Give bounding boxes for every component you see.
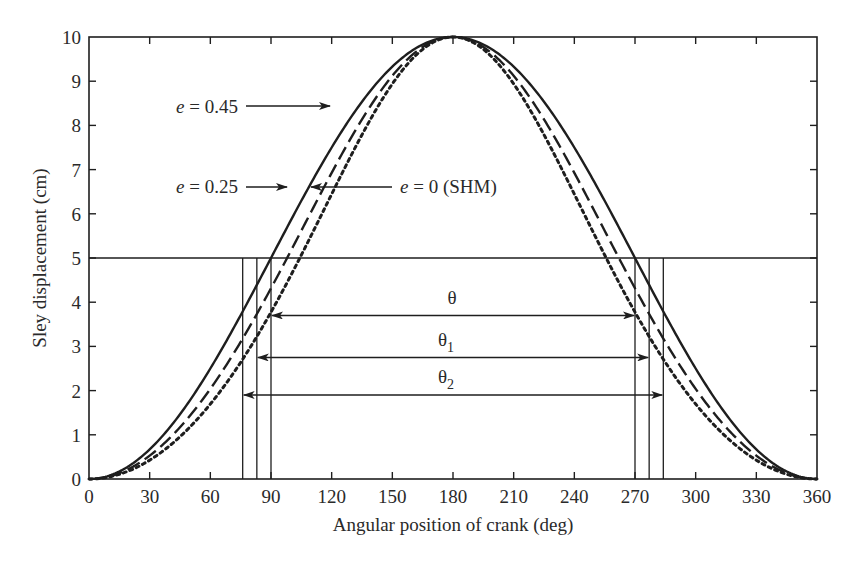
x-tick-label: 300	[681, 486, 710, 507]
theta1-label: θ1	[438, 329, 454, 355]
x-tick-label: 30	[140, 486, 159, 507]
annotation-e045: e = 0.45	[176, 96, 238, 117]
y-tick-label: 5	[72, 248, 82, 269]
sley-displacement-chart: 012345678910 030609012015018021024027030…	[0, 0, 858, 569]
x-tick-label: 240	[560, 486, 589, 507]
y-tick-label: 4	[72, 292, 82, 313]
y-tick-label: 6	[72, 204, 82, 225]
y-tick-label: 1	[72, 425, 82, 446]
y-axis-title: Sley displacement (cm)	[29, 168, 51, 347]
x-tick-label: 360	[803, 486, 832, 507]
x-tick-label: 180	[439, 486, 468, 507]
annotation-e0: e = 0 (SHM)	[400, 176, 497, 198]
x-tick-label: 150	[378, 486, 407, 507]
x-tick-label: 0	[84, 486, 94, 507]
x-tick-label: 60	[201, 486, 220, 507]
y-tick-label: 10	[62, 27, 81, 48]
x-axis-title: Angular position of crank (deg)	[333, 514, 574, 536]
y-tick-label: 9	[72, 71, 82, 92]
x-tick-label: 90	[262, 486, 281, 507]
y-tick-label: 7	[72, 160, 82, 181]
y-tick-label: 0	[72, 469, 82, 490]
y-tick-label: 3	[72, 336, 82, 357]
x-tick-label: 210	[499, 486, 528, 507]
x-tick-label: 120	[317, 486, 346, 507]
x-tick-label: 330	[742, 486, 771, 507]
y-tick-label: 8	[72, 115, 82, 136]
annotation-e025: e = 0.25	[176, 176, 238, 197]
theta2-label: θ2	[438, 366, 454, 392]
y-tick-label: 2	[72, 381, 82, 402]
x-tick-label: 270	[621, 486, 650, 507]
theta-label: θ	[447, 287, 456, 308]
